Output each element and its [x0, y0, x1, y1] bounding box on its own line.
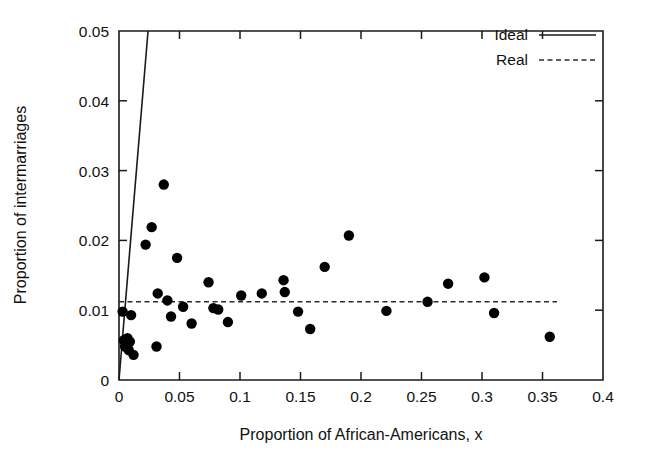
y-tick-label: 0.03: [79, 163, 109, 180]
data-point: [203, 277, 213, 287]
x-tick-label: 0.15: [285, 388, 315, 405]
x-axis-title: Proportion of African-Americans, x: [240, 426, 483, 443]
y-tick-label: 0.05: [79, 23, 109, 40]
data-point: [172, 253, 182, 263]
x-tick-label: 0.25: [406, 388, 436, 405]
data-point: [381, 306, 391, 316]
chart-figure: 00.050.10.150.20.250.30.350.400.010.020.…: [0, 0, 646, 459]
data-point: [278, 275, 288, 285]
data-point: [159, 179, 169, 189]
data-point: [162, 295, 172, 305]
data-point: [186, 318, 196, 328]
data-point: [146, 222, 156, 232]
data-point: [489, 308, 499, 318]
data-point: [128, 350, 138, 360]
x-tick-label: 0.1: [229, 388, 251, 405]
data-point: [257, 288, 267, 298]
series-line-ideal: [119, 31, 148, 380]
data-point: [178, 302, 188, 312]
data-point: [443, 278, 453, 288]
legend-label-ideal: Ideal: [494, 26, 528, 43]
data-point: [213, 304, 223, 314]
x-tick-label: 0.05: [164, 388, 194, 405]
data-point: [153, 288, 163, 298]
data-point: [479, 272, 489, 282]
data-point: [305, 324, 315, 334]
data-point: [344, 230, 354, 240]
legend-label-real: Real: [496, 51, 528, 68]
chart-legend: Ideal Real: [494, 26, 596, 68]
y-tick-label: 0: [100, 372, 109, 389]
y-tick-label: 0.04: [79, 93, 110, 110]
data-point: [293, 306, 303, 316]
y-axis-title: Proportion of intermarriages: [12, 106, 29, 304]
x-tick-label: 0.35: [527, 388, 557, 405]
data-point: [320, 262, 330, 272]
data-point: [125, 336, 135, 346]
y-tick-label: 0.02: [79, 232, 109, 249]
x-tick-label: 0: [115, 388, 124, 405]
data-points-group: [117, 179, 555, 360]
x-tick-label: 0.4: [592, 388, 614, 405]
y-tick-label: 0.01: [79, 302, 109, 319]
scatter-plot: 00.050.10.150.20.250.30.350.400.010.020.…: [0, 0, 646, 459]
data-point: [166, 311, 176, 321]
data-point: [422, 297, 432, 307]
data-point: [126, 310, 136, 320]
data-point: [151, 341, 161, 351]
data-point: [236, 290, 246, 300]
x-tick-label: 0.2: [350, 388, 372, 405]
data-point: [280, 287, 290, 297]
series-lines-group: [119, 31, 557, 380]
x-tick-label: 0.3: [471, 388, 493, 405]
data-point: [223, 317, 233, 327]
data-point: [545, 332, 555, 342]
data-point: [140, 239, 150, 249]
